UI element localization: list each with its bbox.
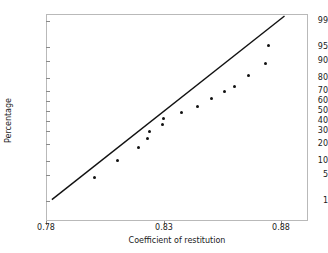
x-tick-label-0.83: 0.83 [150, 224, 178, 232]
y-axis-title-text: Percentage [4, 81, 13, 161]
y-tick-label-60: 60 [286, 97, 328, 105]
y-tick-mark-80 [46, 78, 50, 79]
y-tick-mark-99 [46, 21, 50, 22]
y-tick-label-99: 99 [286, 17, 328, 25]
y-tick-mark-20 [46, 144, 50, 145]
y-tick-mark-5 [46, 175, 50, 176]
y-tick-label-40: 40 [286, 117, 328, 125]
normal-probability-plot-figure: Percentage 99 95 90 80 70 60 50 40 30 20… [0, 0, 328, 253]
y-tick-mark-50 [46, 111, 50, 112]
y-tick-label-1: 1 [286, 197, 328, 205]
data-point [148, 130, 151, 133]
y-tick-mark-90 [46, 61, 50, 62]
y-tick-mark-70 [46, 91, 50, 92]
y-tick-label-5: 5 [286, 171, 328, 179]
y-tick-label-95: 95 [286, 43, 328, 51]
y-tick-label-50: 50 [286, 107, 328, 115]
y-tick-mark-60 [46, 101, 50, 102]
data-point [247, 74, 250, 77]
y-axis-title: Percentage [0, 70, 14, 170]
y-tick-mark-40 [46, 121, 50, 122]
data-point [146, 137, 149, 140]
x-axis-title: Coefficient of restitution [46, 236, 308, 245]
x-tick-label-0.78: 0.78 [32, 224, 60, 232]
y-tick-label-70: 70 [286, 87, 328, 95]
y-tick-label-10: 10 [286, 157, 328, 165]
y-tick-mark-30 [46, 131, 50, 132]
y-tick-mark-1 [46, 201, 50, 202]
data-point [180, 111, 183, 114]
data-point [162, 117, 165, 120]
data-point [267, 44, 270, 47]
y-tick-label-20: 20 [286, 140, 328, 148]
data-point [116, 159, 119, 162]
y-tick-label-90: 90 [286, 57, 328, 65]
x-tick-label-0.88: 0.88 [267, 224, 295, 232]
data-point [233, 85, 236, 88]
y-tick-mark-95 [46, 47, 50, 48]
y-tick-mark-10 [46, 161, 50, 162]
y-tick-label-80: 80 [286, 74, 328, 82]
y-tick-label-30: 30 [286, 127, 328, 135]
